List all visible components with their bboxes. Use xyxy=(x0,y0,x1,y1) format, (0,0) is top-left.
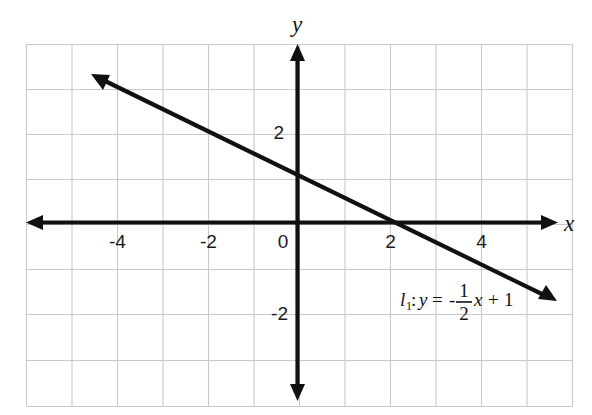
equation-separator: : xyxy=(411,289,416,310)
equation-lhs: y xyxy=(417,289,428,310)
equation-constant: 1 xyxy=(504,289,514,310)
y-axis-label: y xyxy=(290,12,303,37)
y-tick-label-neg2: -2 xyxy=(271,303,288,324)
x-tick-label-neg2: -2 xyxy=(200,231,217,252)
graph-figure: -4 -2 0 2 4 2 -2 y x l 1 : y = - 1 2 x +… xyxy=(0,0,592,415)
equation-minus-sign: - xyxy=(449,289,455,310)
y-tick-label-2: 2 xyxy=(273,122,284,143)
x-tick-label-4: 4 xyxy=(476,231,487,252)
x-axis-label: x xyxy=(563,211,575,236)
x-tick-label-2: 2 xyxy=(385,231,396,252)
equation-line-id: l xyxy=(400,289,405,310)
equation-equals: = xyxy=(432,289,443,310)
equation-fraction-denominator: 2 xyxy=(459,303,469,324)
x-tick-label-neg4: -4 xyxy=(109,231,126,252)
x-tick-label-zero: 0 xyxy=(278,231,289,252)
equation-variable: x xyxy=(473,289,483,310)
equation-fraction-numerator: 1 xyxy=(459,280,469,301)
equation-plus-sign: + xyxy=(488,289,499,310)
